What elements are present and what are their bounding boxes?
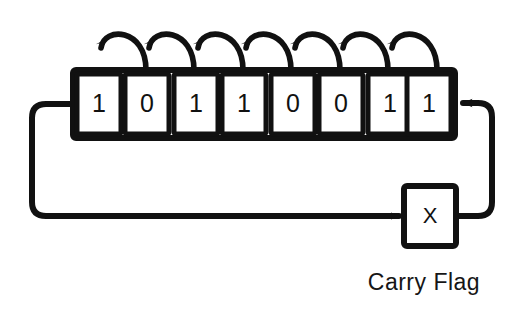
shift-register[interactable]: 1 0 1 1 0 0 1 1 <box>73 70 455 138</box>
curved-arrow-icon-4 <box>246 34 291 70</box>
curved-arrow-icon-2 <box>149 34 194 70</box>
bit-value-2: 1 <box>189 89 203 117</box>
carry-flag-label: Carry Flag <box>368 269 480 295</box>
bit-shift-arrows <box>101 34 437 70</box>
bit-value-6: 1 <box>383 89 397 117</box>
bit-value-3: 1 <box>237 89 251 117</box>
curved-arrow-icon-6 <box>343 34 388 70</box>
bit-value-5: 0 <box>334 89 348 117</box>
curved-arrow-icon-5 <box>295 34 340 70</box>
bit-value-0: 1 <box>92 89 106 117</box>
register-in-path <box>456 103 492 216</box>
curved-arrow-icon-1 <box>101 34 146 70</box>
curved-arrow-icon-7 <box>392 34 437 70</box>
curved-arrow-icon-3 <box>198 34 243 70</box>
diagram-canvas: 1 0 1 1 0 0 1 1 X Carry Flag <box>0 0 526 316</box>
carry-flag[interactable]: X <box>404 186 456 246</box>
rotate-through-carry-diagram: 1 0 1 1 0 0 1 1 X Carry Flag <box>0 0 526 316</box>
carry-flag-value: X <box>423 203 438 228</box>
bit-value-7: 1 <box>422 89 436 117</box>
bit-value-4: 0 <box>286 89 300 117</box>
bit-value-1: 0 <box>140 89 154 117</box>
